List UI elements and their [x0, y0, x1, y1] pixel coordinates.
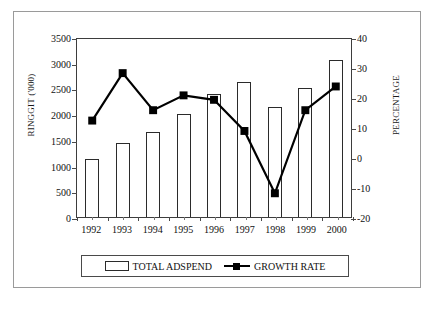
- growth-marker-1996: [210, 96, 218, 104]
- x-axis-label-1996: 1996: [199, 224, 230, 240]
- left-tick-label: 1000: [51, 163, 71, 173]
- legend-label-growth-rate: GROWTH RATE: [254, 261, 325, 272]
- x-axis-label-1998: 1998: [260, 224, 291, 240]
- x-minor-tick-mark: [184, 217, 185, 220]
- growth-rate-line: [92, 73, 336, 193]
- growth-marker-1994: [149, 106, 157, 114]
- left-tick-label: 3500: [51, 34, 71, 44]
- legend-item-growth-rate: GROWTH RATE: [224, 261, 325, 272]
- x-axis-labels: 199219931994199519961997199819992000: [76, 224, 352, 240]
- x-tick-mark: [322, 217, 323, 221]
- x-tick-mark: [169, 217, 170, 221]
- line-marker-swatch-icon: [224, 261, 250, 271]
- x-tick-mark: [292, 217, 293, 221]
- growth-marker-1992: [88, 117, 96, 125]
- growth-marker-1995: [180, 91, 188, 99]
- legend-item-total-adspend: TOTAL ADSPEND: [105, 261, 212, 272]
- x-axis-label-1995: 1995: [168, 224, 199, 240]
- growth-marker-1998: [271, 189, 279, 197]
- x-axis-label-1997: 1997: [229, 224, 260, 240]
- x-axis-label-1993: 1993: [107, 224, 138, 240]
- left-tick-label: 3000: [51, 60, 71, 70]
- x-axis-label-1999: 1999: [291, 224, 322, 240]
- growth-marker-1993: [119, 69, 127, 77]
- line-series-growth-rate: [77, 39, 351, 217]
- right-tick-label: -20: [357, 214, 370, 224]
- x-axis-label-1992: 1992: [76, 224, 107, 240]
- left-axis-title: RINGGIT ('000): [26, 50, 36, 160]
- left-tick-label: 2500: [51, 85, 71, 95]
- right-tick-label: 40: [357, 34, 367, 44]
- left-tick-label: 1500: [51, 137, 71, 147]
- x-tick-mark: [353, 217, 354, 221]
- x-axis-label-1994: 1994: [137, 224, 168, 240]
- growth-marker-1997: [240, 127, 248, 135]
- x-tick-mark: [77, 217, 78, 221]
- right-tick-mark: [351, 69, 356, 70]
- x-minor-tick-mark: [123, 217, 124, 220]
- left-tick-label: 0: [66, 214, 71, 224]
- x-axis-label-2000: 2000: [321, 224, 352, 240]
- growth-marker-2000: [332, 83, 340, 91]
- growth-marker-1999: [301, 106, 309, 114]
- x-tick-mark: [200, 217, 201, 221]
- chart-legend: TOTAL ADSPEND GROWTH RATE: [81, 255, 349, 277]
- right-tick-label: 30: [357, 64, 367, 74]
- right-tick-mark: [351, 99, 356, 100]
- left-tick-label: 2000: [51, 111, 71, 121]
- right-tick-mark: [351, 189, 356, 190]
- x-tick-mark: [138, 217, 139, 221]
- right-tick-mark: [351, 39, 356, 40]
- x-minor-tick-mark: [215, 217, 216, 220]
- x-minor-tick-mark: [307, 217, 308, 220]
- right-tick-label: 20: [357, 94, 367, 104]
- growth-rate-markers: [88, 69, 339, 197]
- x-minor-tick-mark: [338, 217, 339, 220]
- figure-container: RINGGIT ('000) PERCENTAGE 05001000150020…: [13, 11, 421, 288]
- right-tick-label: 10: [357, 124, 367, 134]
- x-minor-tick-mark: [154, 217, 155, 220]
- plot-area: 0500100015002000250030003500 -20-1001020…: [76, 38, 352, 218]
- right-tick-label: -10: [357, 184, 370, 194]
- x-minor-tick-mark: [276, 217, 277, 220]
- right-axis-title: PERCENTAGE: [391, 50, 401, 160]
- x-minor-tick-mark: [246, 217, 247, 220]
- right-tick-mark: [351, 159, 356, 160]
- left-tick-label: 500: [56, 188, 71, 198]
- x-minor-tick-mark: [92, 217, 93, 220]
- bar-swatch-icon: [105, 261, 129, 271]
- legend-label-total-adspend: TOTAL ADSPEND: [133, 261, 212, 272]
- right-tick-mark: [351, 129, 356, 130]
- x-tick-mark: [261, 217, 262, 221]
- right-tick-label: 0: [357, 154, 362, 164]
- x-tick-mark: [108, 217, 109, 221]
- x-tick-mark: [230, 217, 231, 221]
